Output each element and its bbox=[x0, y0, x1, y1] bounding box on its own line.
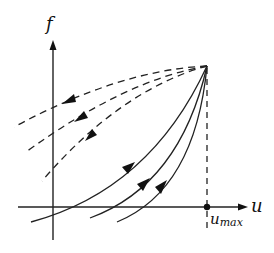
solid-trajectory-2 bbox=[90, 66, 207, 218]
solid-trajectory-3 bbox=[117, 66, 207, 222]
solid-trajectory-1 bbox=[31, 66, 207, 222]
arrow-left-icon bbox=[74, 111, 88, 122]
u-axis-label: u bbox=[251, 195, 263, 216]
dashed-trajectory-3 bbox=[42, 66, 207, 181]
f-axis-arrow-icon bbox=[50, 40, 57, 50]
phase-diagram: f u umax bbox=[0, 0, 274, 253]
umax-label-main: u bbox=[210, 210, 220, 228]
u-axis-arrow-icon bbox=[238, 204, 248, 211]
solid-trajectories bbox=[31, 66, 207, 222]
umax-label-sub: max bbox=[220, 216, 244, 229]
umax-label: umax bbox=[210, 210, 244, 229]
arrow-right-icon bbox=[137, 178, 150, 191]
arrow-left-icon bbox=[85, 129, 97, 141]
arrow-left-icon bbox=[62, 94, 76, 104]
dashed-trajectories bbox=[14, 66, 207, 181]
f-axis-label: f bbox=[44, 13, 56, 34]
